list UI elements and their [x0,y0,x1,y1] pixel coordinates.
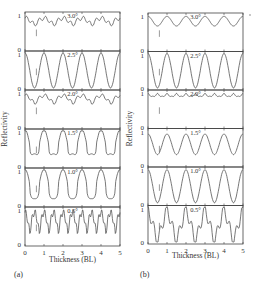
reflectivity-curve [148,54,243,89]
svg-text:2.5°: 2.5° [190,52,201,59]
reflectivity-curve [148,170,243,203]
subplot-1.0°: 101.0° [141,167,244,209]
x-tick-label: 1 [165,247,169,255]
svg-text:1.0°: 1.0° [190,167,201,174]
svg-text:0: 0 [141,239,145,247]
svg-text:1: 1 [18,51,22,59]
svg-text:3.0°: 3.0° [190,13,201,20]
x-axis-label: Thickness (BL) [172,251,219,260]
x-tick-label: 4 [99,249,103,257]
svg-text:1: 1 [18,90,22,98]
x-tick-label: 4 [222,247,226,255]
x-tick-label: 1 [42,249,46,257]
svg-text:1: 1 [18,168,22,176]
reflectivity-curve [148,134,243,155]
reflectivity-curve [25,53,120,88]
svg-text:1: 1 [141,13,145,21]
svg-text:1: 1 [141,52,145,60]
svg-text:1.5°: 1.5° [190,129,201,136]
subplot-0.5°: 100.5° [141,206,244,248]
x-tick-label: 5 [118,249,122,257]
reflectivity-curve [148,208,243,243]
subplot-3.0°: 103.0° [141,13,244,55]
svg-text:0: 0 [18,241,22,249]
subplot-2.0°: 102.0° [18,90,121,132]
svg-text:1: 1 [141,206,145,214]
panel-b-label: (b) [140,270,149,279]
subplot-1.0°: 101.0° [18,168,121,210]
subplot-1.5°: 101.5° [141,129,244,171]
svg-text:3.0°: 3.0° [67,12,78,19]
figure: 103.0°102.5°102.0°101.5°101.0°100.5°0123… [0,0,255,288]
svg-text:0.5°: 0.5° [190,206,201,213]
y-axis-label: Reflectivity [0,111,9,147]
x-tick-label: 0 [23,249,27,257]
subplot-3.0°: 103.0° [18,12,121,54]
x-tick-label: 5 [241,247,245,255]
stray-mark [249,14,250,15]
svg-text:1: 1 [18,129,22,137]
reflectivity-curve [25,210,120,234]
x-tick-label: 0 [146,247,150,255]
subplot-1.5°: 101.5° [18,129,121,171]
svg-text:1: 1 [141,90,145,98]
svg-text:1: 1 [141,167,145,175]
subplot-2.5°: 102.5° [18,51,121,93]
svg-text:2.5°: 2.5° [67,51,78,58]
y-axis-label: Reflectivity [125,111,134,147]
subplot-2.5°: 102.5° [141,52,244,94]
svg-text:1: 1 [141,129,145,137]
subplot-2.0°: 102.0° [141,90,244,132]
panel-b: 103.0°102.5°102.0°101.5°101.0°100.5°0123… [125,13,245,260]
subplot-0.5°: 100.5° [18,207,121,249]
x-axis-label: Thickness (BL) [49,255,96,264]
panel-a: 103.0°102.5°102.0°101.5°101.0°100.5°0123… [0,12,122,264]
svg-text:1: 1 [18,12,22,20]
svg-text:1.5°: 1.5° [67,129,78,136]
panel-a-label: (a) [14,270,23,279]
svg-text:2.0°: 2.0° [67,90,78,97]
svg-text:1: 1 [18,207,22,215]
svg-text:1.0°: 1.0° [67,168,78,175]
